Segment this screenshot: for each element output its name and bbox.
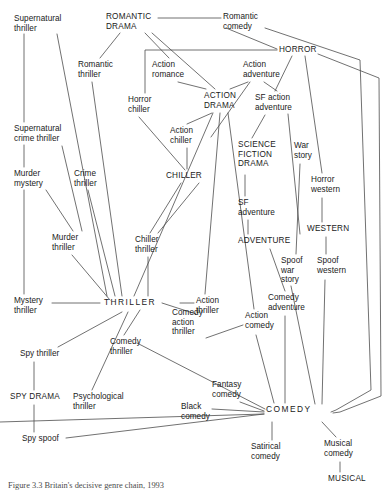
edge-spoof_western-to-comedy	[322, 280, 325, 404]
edge-romantic_drama-to-romantic_thriller	[100, 33, 120, 58]
genre-node-sf_action_adventure: SF action adventure	[255, 93, 292, 112]
genre-node-musical_comedy: Musical comedy	[324, 439, 353, 458]
figure-caption: Figure 3.3 Britain's decisive genre chai…	[8, 481, 164, 491]
genre-node-comedy_action_thriller: Comedy action thriller	[172, 308, 203, 337]
genre-node-satirical_comedy: Satirical comedy	[251, 442, 281, 461]
edge-comedy_action_thriller-to-action_comedy	[206, 325, 243, 338]
genre-node-spy_drama: SPY DRAMA	[10, 392, 60, 402]
genre-node-spy_spoof: Spy spoof	[22, 434, 59, 444]
genre-node-psychological_thriller: Psychological thriller	[73, 392, 124, 411]
edge-spy_spoof-to-comedy	[66, 414, 264, 438]
genre-node-spy_thriller: Spy thriller	[20, 349, 59, 359]
edge-thriller-to-comedy_thriller	[124, 310, 140, 335]
genre-node-thriller: THRILLER	[104, 298, 156, 308]
genre-node-horror: HORROR	[279, 45, 317, 55]
genre-node-action_comedy: Action comedy	[245, 311, 274, 330]
edge-comedy-to-musical_comedy	[322, 422, 336, 437]
genre-node-musical: MUSICAL	[328, 474, 366, 484]
genre-node-supernatural_thriller: Supernatural thriller	[14, 14, 61, 33]
genre-node-romantic_thriller: Romantic thriller	[78, 60, 113, 79]
genre-node-murder_thriller: Murder thriller	[52, 233, 78, 252]
edge-comedy_thriller-to-comedy	[137, 343, 265, 409]
edge-war_story-to-spoof_war_story	[296, 164, 300, 254]
genre-node-chiller: CHILLER	[166, 171, 202, 181]
edge-action_romance-to-action_drama	[178, 82, 206, 89]
genre-node-comedy_adventure: Comedy adventure	[268, 293, 305, 312]
edge-crime_thriller-to-thriller	[88, 190, 115, 296]
genre-node-chiller_thriller: Chiller thriller	[135, 235, 159, 254]
genre-node-science_fiction_drama: SCIENCE FICTION DRAMA	[238, 140, 276, 169]
genre-node-fantasy_comedy: Fantasy comedy	[212, 380, 241, 399]
genre-node-black_comedy: Black comedy	[181, 402, 210, 421]
edge-murder_mystery-to-murder_thriller	[46, 190, 73, 231]
edge-murder_thriller-to-thriller	[72, 255, 110, 300]
genre-node-war_story: War story	[294, 141, 312, 160]
edge-black_comedy-to-comedy	[212, 409, 264, 412]
genre-node-romantic_comedy: Romantic comedy	[223, 12, 258, 31]
edge-sf_action_adventure-to-adventure	[288, 114, 300, 234]
genre-node-comedy: COMEDY	[266, 405, 311, 415]
genre-node-horror_western: Horror western	[311, 175, 340, 194]
edge-black_comedy-to-comedy	[0, 414, 264, 422]
genre-node-action_drama: ACTION DRAMA	[204, 91, 236, 110]
edge-romantic_drama-to-action_romance	[145, 33, 169, 58]
edge-romantic_comedy-to-comedy	[265, 28, 371, 412]
genre-node-horror_chiller: Horror chiller	[128, 95, 152, 114]
genre-node-action_adventure: Action adventure	[243, 60, 280, 79]
genre-node-murder_mystery: Murder mystery	[14, 169, 43, 188]
edge-chiller-to-chiller_thriller	[150, 183, 181, 233]
genre-node-action_chiller: Action chiller	[170, 126, 193, 145]
edge-action_comedy-to-comedy	[256, 335, 274, 403]
genre-node-spoof_western: Spoof western	[317, 256, 346, 275]
genre-node-action_romance: Action romance	[152, 60, 184, 79]
genre-node-comedy_thriller: Comedy thriller	[110, 337, 141, 356]
genre-network-figure: Supernatural thrillerROMANTIC DRAMARoman…	[0, 0, 390, 494]
genre-node-western: WESTERN	[307, 224, 349, 234]
edge-action_drama-to-action_chiller	[187, 113, 212, 124]
genre-node-spoof_war_story: Spoof war story	[281, 256, 303, 285]
edge-action_adventure-to-sf_action_adventure	[264, 82, 277, 91]
genre-node-sf_adventure: SF adventure	[238, 198, 275, 217]
genre-node-crime_thriller: Crime thriller	[74, 169, 97, 188]
genre-node-mystery_thriller: Mystery thriller	[14, 296, 43, 315]
edge-action_drama-to-action_thriller	[205, 113, 220, 294]
edge-sf_action_adventure-to-science_fiction_drama	[252, 115, 265, 138]
genre-node-romantic_drama: ROMANTIC DRAMA	[106, 12, 151, 31]
genre-node-adventure: ADVENTURE	[238, 236, 290, 246]
genre-node-supernatural_crime_thriller: Supernatural crime thriller	[14, 124, 61, 143]
